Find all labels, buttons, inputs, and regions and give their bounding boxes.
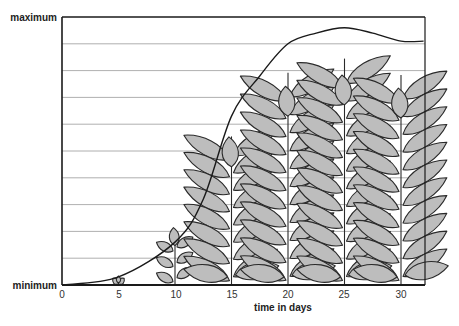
x-axis-label: time in days bbox=[254, 302, 312, 313]
growth-chart: maximum minimum 0 5 10 15 20 25 30 time … bbox=[0, 0, 459, 326]
x-tick-20: 20 bbox=[282, 289, 294, 300]
y-min-label: minimum bbox=[13, 280, 58, 291]
x-tick-30: 30 bbox=[395, 289, 407, 300]
x-tick-15: 15 bbox=[226, 289, 238, 300]
x-ticks: 0 5 10 15 20 25 30 bbox=[59, 289, 407, 300]
leaf bbox=[154, 269, 175, 286]
x-tick-10: 10 bbox=[170, 289, 182, 300]
x-tick-25: 25 bbox=[338, 289, 350, 300]
plants bbox=[111, 49, 451, 287]
x-tick-0: 0 bbox=[59, 289, 65, 300]
x-tick-5: 5 bbox=[116, 289, 122, 300]
leaf bbox=[403, 257, 450, 283]
y-max-label: maximum bbox=[10, 12, 57, 23]
leaf bbox=[221, 136, 240, 167]
